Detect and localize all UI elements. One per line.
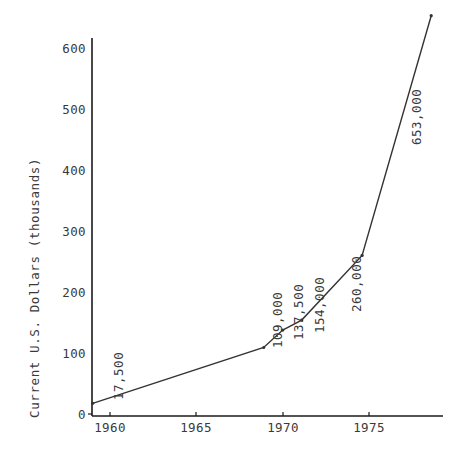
data-point-label: 154,000	[314, 277, 327, 333]
data-point-label: 17,500	[113, 352, 126, 400]
data-point-label: 109,000	[272, 292, 285, 348]
data-point	[430, 14, 433, 17]
line-chart: Current U.S. Dollars (thousands) 0 100 2…	[0, 0, 464, 465]
data-point	[91, 402, 94, 405]
data-point-label: 137,500	[293, 284, 306, 340]
plot-area	[0, 0, 464, 465]
data-point-label: 260,000	[351, 256, 364, 312]
data-point-label: 653,000	[411, 89, 424, 145]
data-point	[262, 346, 265, 349]
data-point-markers	[91, 14, 433, 405]
data-line	[93, 16, 432, 404]
